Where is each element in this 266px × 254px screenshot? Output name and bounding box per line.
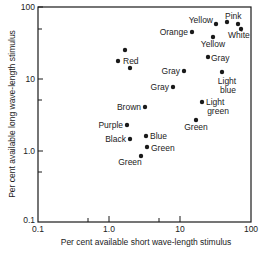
label-yellow-b: Yellow xyxy=(201,39,226,49)
y-tick-100: 100 xyxy=(21,2,35,12)
x-tick-1: 1.0 xyxy=(103,224,115,234)
label-light-green-2: green xyxy=(207,106,229,116)
point-gray-a xyxy=(206,55,210,59)
point-red-c xyxy=(128,66,132,70)
point-purple xyxy=(125,123,129,127)
x-tick-10: 10 xyxy=(175,224,185,234)
label-brown: Brown xyxy=(117,102,141,112)
y-axis-ticks xyxy=(38,7,43,172)
point-brown xyxy=(143,105,147,109)
y-tick-1: 1.0 xyxy=(23,146,35,156)
label-purple: Purple xyxy=(98,120,123,130)
label-gray-c: Gray xyxy=(151,82,170,92)
label-black: Black xyxy=(105,134,127,144)
x-axis-title: Per cent available short wave-length sti… xyxy=(61,237,232,247)
y-axis-title: Per cent available long wave-length stim… xyxy=(7,30,17,198)
label-green-a: Green xyxy=(184,122,208,132)
label-pink: Pink xyxy=(225,11,242,21)
point-orange xyxy=(190,30,194,34)
point-white-a xyxy=(236,22,240,26)
point-blue xyxy=(144,134,148,138)
label-green-b: Green xyxy=(151,143,175,153)
y-tick-10: 10 xyxy=(26,74,36,84)
point-light-blue xyxy=(220,70,224,74)
label-orange: Orange xyxy=(160,27,189,37)
label-red: Red xyxy=(123,56,139,66)
x-tick-100: 100 xyxy=(244,224,258,234)
label-light-blue-2: blue xyxy=(220,85,236,95)
point-black xyxy=(128,137,132,141)
label-white: White xyxy=(228,30,250,40)
point-gray-b xyxy=(182,69,186,73)
point-red-a xyxy=(123,48,127,52)
label-gray-a: Gray xyxy=(211,53,230,63)
point-red-b xyxy=(116,59,120,63)
point-gray-c xyxy=(171,85,175,89)
label-green-c: Green xyxy=(118,157,142,167)
label-blue: Blue xyxy=(150,131,167,141)
point-green-b xyxy=(145,145,149,149)
label-gray-b: Gray xyxy=(162,66,181,76)
point-yellow-a xyxy=(214,22,218,26)
label-yellow-a: Yellow xyxy=(189,15,214,25)
scatter-chart: 100 10 1.0 0.1 0.1 1.0 10 100 Per cent a… xyxy=(0,0,266,254)
x-tick-0-1: 0.1 xyxy=(32,224,44,234)
x-axis-ticks xyxy=(88,216,180,222)
point-light-green xyxy=(200,100,204,104)
